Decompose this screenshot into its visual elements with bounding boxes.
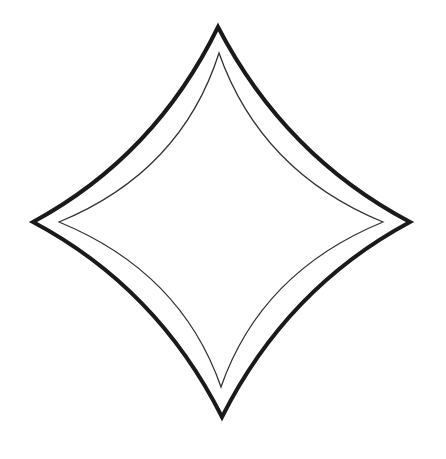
drawing-canvas [0,0,446,459]
four-point-star-icon [0,0,446,459]
star-inner-outline [59,53,383,387]
star-outer-outline [33,27,410,417]
